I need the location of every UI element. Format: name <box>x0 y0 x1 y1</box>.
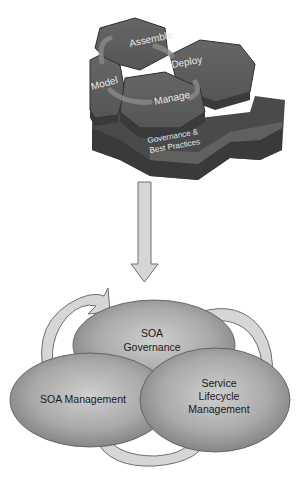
label-lifecycle-line3: Management <box>188 403 249 415</box>
hexagon-cluster: Assemble Deploy Model Manage Governance … <box>90 18 285 180</box>
label-lifecycle-line1: Service <box>201 377 236 389</box>
soa-diagram: Assemble Deploy Model Manage Governance … <box>0 0 304 480</box>
label-soa-management: SOA Management <box>40 393 126 405</box>
down-arrow <box>131 182 158 282</box>
label-soa-governance-line2: Governance <box>123 341 180 353</box>
label-soa-governance-line1: SOA <box>141 327 163 339</box>
label-lifecycle-line2: Lifecycle <box>199 390 240 402</box>
